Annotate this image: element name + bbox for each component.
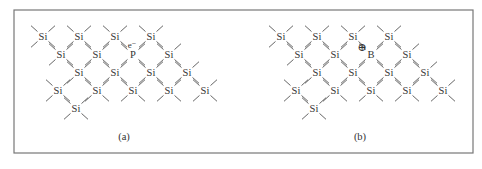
panel-a-n-type-phosphorus: SiSiSiSiSiSiPSiSiSiSiSiSiSiSiSiSiSie⁻(a) — [31, 26, 217, 143]
bond-line — [449, 80, 456, 86]
bond-line — [284, 80, 291, 86]
bond-line — [323, 95, 330, 101]
silicon-atom: Si — [129, 85, 138, 96]
bond-line — [305, 26, 312, 32]
silicon-atom: Si — [439, 85, 448, 96]
silicon-atom: Si — [295, 49, 304, 60]
bond-line — [85, 26, 92, 32]
bond-line — [31, 26, 38, 32]
silicon-atom: Si — [75, 31, 84, 42]
silicon-atom: Si — [93, 85, 102, 96]
bond-line — [320, 98, 327, 104]
silicon-atom: Si — [331, 85, 340, 96]
bond-line — [395, 26, 402, 32]
bond-line — [359, 95, 366, 101]
bond-line — [64, 113, 71, 119]
bond-line — [31, 41, 38, 47]
hole-icon: ⊕ — [357, 41, 366, 53]
bond-line — [359, 26, 366, 32]
bond-line — [305, 77, 312, 83]
bond-line — [64, 80, 71, 86]
bond-line — [46, 95, 53, 101]
silicon-atom: Si — [313, 31, 322, 42]
bond-line — [67, 26, 74, 32]
bond-line — [284, 95, 291, 101]
bond-line — [323, 26, 330, 32]
electron-label: e⁻ — [128, 40, 137, 50]
silicon-atom: Si — [54, 85, 63, 96]
bond-line — [121, 95, 128, 101]
dopant-atom-b: B — [367, 49, 374, 60]
bond-line — [431, 62, 438, 68]
bond-line — [341, 95, 348, 101]
bond-line — [157, 26, 164, 32]
bond-line — [302, 113, 309, 119]
silicon-atom: Si — [165, 85, 174, 96]
bond-line — [211, 95, 218, 101]
doped-silicon-lattice-diagram: SiSiSiSiSiSiPSiSiSiSiSiSiSiSiSiSiSie⁻(a)… — [0, 0, 482, 169]
bond-line — [46, 80, 53, 86]
bond-line — [193, 62, 200, 68]
bond-line — [395, 95, 402, 101]
bond-line — [49, 59, 56, 65]
silicon-atom: Si — [277, 31, 286, 42]
bond-line — [413, 44, 420, 50]
bond-line — [82, 98, 89, 104]
bond-line — [431, 95, 438, 101]
panel-caption-a: (a) — [118, 131, 130, 143]
bond-line — [341, 26, 348, 32]
bond-line — [139, 26, 146, 32]
silicon-atom: Si — [403, 85, 412, 96]
bond-line — [377, 95, 384, 101]
bond-line — [175, 44, 182, 50]
bond-line — [449, 95, 456, 101]
silicon-atom: Si — [75, 67, 84, 78]
silicon-atom: Si — [310, 103, 319, 114]
panel-caption-b: (b) — [354, 131, 367, 143]
silicon-atom: Si — [147, 31, 156, 42]
silicon-atom: Si — [183, 67, 192, 78]
silicon-atom: Si — [349, 31, 358, 42]
bond-line — [82, 113, 89, 119]
bond-line — [175, 95, 182, 101]
bond-line — [121, 26, 128, 32]
silicon-atom: Si — [111, 67, 120, 78]
silicon-atom: Si — [111, 31, 120, 42]
silicon-atom: Si — [313, 67, 322, 78]
silicon-atom: Si — [385, 67, 394, 78]
bond-line — [157, 95, 164, 101]
silicon-atom: Si — [93, 49, 102, 60]
silicon-atom: Si — [57, 49, 66, 60]
bond-line — [269, 26, 276, 32]
bond-line — [103, 95, 110, 101]
bond-line — [320, 113, 327, 119]
silicon-atom: Si — [39, 31, 48, 42]
silicon-atom: Si — [349, 67, 358, 78]
bond-line — [287, 59, 294, 65]
silicon-atom: Si — [165, 49, 174, 60]
panel-b-p-type-boron: SiSiSiSiSiSiBSiSiSiSiSiSiSiSiSiSiSi⊕(b) — [269, 26, 455, 143]
bond-line — [103, 26, 110, 32]
bond-line — [269, 41, 276, 47]
silicon-atom: Si — [403, 49, 412, 60]
dopant-atom-p: P — [130, 49, 136, 60]
silicon-atom: Si — [72, 103, 81, 114]
bond-line — [193, 95, 200, 101]
silicon-atom: Si — [292, 85, 301, 96]
silicon-atom: Si — [367, 85, 376, 96]
bond-line — [85, 95, 92, 101]
bond-line — [211, 80, 218, 86]
bond-line — [302, 80, 309, 86]
silicon-atom: Si — [201, 85, 210, 96]
bond-line — [67, 77, 74, 83]
bond-line — [377, 26, 384, 32]
bond-line — [139, 95, 146, 101]
bond-line — [49, 26, 56, 32]
bond-line — [287, 26, 294, 32]
silicon-atom: Si — [421, 67, 430, 78]
silicon-atom: Si — [385, 31, 394, 42]
silicon-atom: Si — [147, 67, 156, 78]
silicon-atom: Si — [331, 49, 340, 60]
figure-stage: SiSiSiSiSiSiPSiSiSiSiSiSiSiSiSiSiSie⁻(a)… — [0, 0, 482, 169]
bond-line — [413, 95, 420, 101]
